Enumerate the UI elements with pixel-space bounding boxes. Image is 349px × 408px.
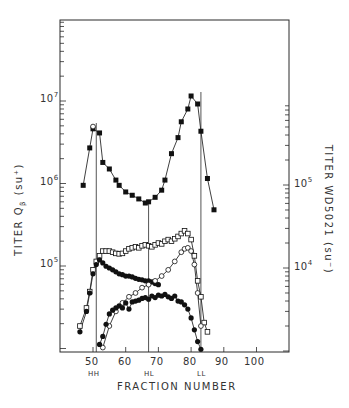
plot-frame [60, 20, 289, 352]
peak-label-hh: HH [88, 370, 100, 378]
chart-plot-area [0, 0, 349, 408]
x-tick-80: 80 [183, 356, 197, 367]
y-left-tick-1e6: 106 [40, 176, 59, 187]
x-tick-60: 60 [118, 356, 132, 367]
y-left-tick-1e7: 107 [40, 93, 59, 104]
x-tick-90: 90 [215, 356, 229, 367]
y-right-tick-1e4: 104 [294, 261, 313, 272]
x-axis-title: FRACTION NUMBER [117, 381, 237, 392]
x-tick-100: 100 [244, 356, 265, 367]
x-tick-50: 50 [85, 356, 99, 367]
y-right-tick-1e5: 105 [294, 178, 313, 189]
series-points [77, 93, 216, 351]
peak-marker-lines [96, 92, 201, 352]
peak-label-hl: HL [144, 370, 154, 378]
peak-label-ll: LL [197, 370, 206, 378]
x-tick-70: 70 [150, 356, 164, 367]
y-right-axis-title: TITER WD5021 (su⁻) [323, 145, 334, 274]
y-left-axis-title: TITER Qβ (su⁺) [13, 163, 24, 256]
y-left-tick-1e5: 105 [40, 258, 59, 269]
